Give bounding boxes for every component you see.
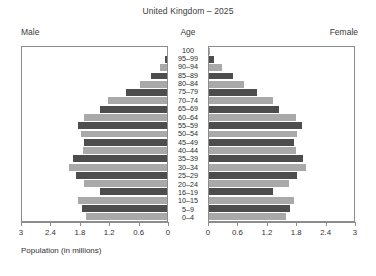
pyramid-bar <box>209 73 233 80</box>
axis-tick <box>237 222 238 226</box>
female-axis-ticks <box>208 222 355 227</box>
pyramid-bar <box>209 122 302 129</box>
pyramid-row <box>209 213 354 221</box>
axis-tick-label: 1.2 <box>104 228 115 237</box>
pyramid-bar <box>209 64 222 71</box>
x-axis-label: Population (in millions) <box>21 246 101 255</box>
pyramid-row <box>22 80 167 88</box>
age-axis-label: Age <box>0 27 376 37</box>
female-plot-panel <box>208 46 355 222</box>
pyramid-row <box>22 188 167 196</box>
pyramid-bar <box>209 114 296 121</box>
pyramid-row <box>209 180 354 188</box>
pyramid-row <box>209 196 354 204</box>
axis-tick-label: 1.2 <box>261 228 272 237</box>
pyramid-bar <box>108 97 167 104</box>
pyramid-row <box>209 72 354 80</box>
pyramid-bar <box>78 197 167 204</box>
pyramid-row <box>22 138 167 146</box>
axis-tick-label: 1.8 <box>74 228 85 237</box>
pyramid-row <box>209 88 354 96</box>
pyramid-bar <box>209 81 244 88</box>
pyramid-row <box>22 155 167 163</box>
pyramid-row <box>22 213 167 221</box>
age-label-column: 10095–9990–9485–8980–8475–7970–7465–6960… <box>168 46 208 222</box>
age-label: 35–39 <box>168 155 208 163</box>
pyramid-row <box>209 188 354 196</box>
pyramid-bar <box>84 180 167 187</box>
pyramid-row <box>209 204 354 212</box>
axis-tick <box>326 222 327 226</box>
age-label: 0–4 <box>168 214 208 222</box>
age-label: 90–94 <box>168 63 208 71</box>
pyramid-row <box>22 130 167 138</box>
axis-tick-label: 0 <box>166 228 170 237</box>
pyramid-bar <box>151 73 167 80</box>
pyramid-bar <box>83 147 167 154</box>
pyramid-row <box>22 55 167 63</box>
pyramid-bar <box>76 172 167 179</box>
pyramid-bar <box>209 197 294 204</box>
age-label: 65–69 <box>168 105 208 113</box>
age-label: 75–79 <box>168 88 208 96</box>
pyramid-bar <box>140 81 167 88</box>
male-axis-ticks <box>21 222 168 227</box>
pyramid-bar <box>100 188 167 195</box>
pyramid-row <box>22 196 167 204</box>
pyramid-row <box>22 113 167 121</box>
axis-tick-label: 3 <box>19 228 23 237</box>
pyramid-row <box>209 138 354 146</box>
axis-tick-label: 0.6 <box>133 228 144 237</box>
axis-tick <box>208 222 209 226</box>
axis-tick-label: 3 <box>353 228 357 237</box>
pyramid-row <box>22 171 167 179</box>
axis-tick <box>21 222 22 226</box>
pyramid-bar <box>100 106 167 113</box>
axis-tick-label: 1.8 <box>291 228 302 237</box>
pyramid-bar <box>78 122 167 129</box>
pyramid-bar <box>209 139 294 146</box>
pyramid-row <box>22 72 167 80</box>
pyramid-bar <box>84 139 167 146</box>
pyramid-row <box>22 64 167 72</box>
pyramid-bar <box>126 89 167 96</box>
pyramid-row <box>209 105 354 113</box>
pyramid-bar <box>209 155 303 162</box>
pyramid-row <box>22 204 167 212</box>
pyramid-row <box>22 163 167 171</box>
pyramid-bar <box>209 48 210 55</box>
pyramid-bar <box>209 106 279 113</box>
pyramid-bar <box>209 164 306 171</box>
pyramid-row <box>22 47 167 55</box>
axis-tick <box>355 222 356 226</box>
age-label: 50–54 <box>168 130 208 138</box>
female-axis-ticklabels: 00.61.21.82.43 <box>208 228 355 240</box>
pyramid-bar <box>73 155 167 162</box>
pyramid-bar <box>209 89 257 96</box>
pyramid-row <box>22 105 167 113</box>
pyramid-bar <box>209 56 214 63</box>
female-side-label: Female <box>330 27 358 37</box>
pyramid-row <box>209 146 354 154</box>
pyramid-bar <box>165 56 167 63</box>
pyramid-row <box>209 171 354 179</box>
pyramid-bar <box>69 164 167 171</box>
pyramid-row <box>209 55 354 63</box>
pyramid-row <box>209 155 354 163</box>
pyramid-row <box>209 97 354 105</box>
age-label: 10–15 <box>168 197 208 205</box>
pyramid-bar <box>209 180 289 187</box>
pyramid-row <box>22 180 167 188</box>
pyramid-bar <box>160 64 167 71</box>
male-axis-ticklabels: 32.41.81.20.60 <box>21 228 168 240</box>
pyramid-bar <box>209 131 297 138</box>
pyramid-row <box>22 88 167 96</box>
age-label: 25–29 <box>168 172 208 180</box>
axis-tick-label: 0.6 <box>232 228 243 237</box>
pyramid-row <box>209 80 354 88</box>
axis-tick-label: 2.4 <box>45 228 56 237</box>
axis-tick <box>139 222 140 226</box>
pyramid-bar <box>82 205 167 212</box>
chart-title: United Kingdom – 2025 <box>0 6 376 16</box>
pyramid-bar <box>209 205 290 212</box>
